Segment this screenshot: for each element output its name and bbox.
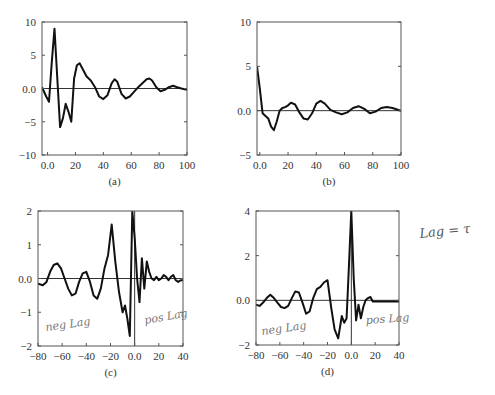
x-tick-label: 0.0: [128, 350, 142, 362]
y-tick-label: 2: [27, 205, 33, 217]
x-tick-label: 40: [394, 349, 406, 361]
y-tick-label: 0.0: [18, 273, 32, 285]
y-tick-label: −10: [19, 149, 37, 161]
y-tick-label: 2: [245, 250, 251, 262]
subplot-caption-a: (a): [108, 175, 121, 188]
x-tick-label: 60: [126, 159, 138, 171]
x-tick-label: 80: [154, 159, 166, 171]
x-tick-label: 80: [367, 159, 379, 171]
subplot-c: −80−60−40−200.02040−2−10.012(c): [18, 205, 189, 379]
y-tick-label: −5: [239, 149, 251, 161]
subplot-caption-b: (b): [323, 175, 336, 188]
x-tick-label: 20: [283, 159, 295, 171]
annotation-neg-lag-c: neg Lag: [45, 315, 91, 334]
y-tick-label: 0.0: [236, 294, 250, 306]
y-tick-label: −1: [20, 306, 32, 318]
series-line-b: [257, 66, 401, 130]
subplot-caption-d: (d): [321, 365, 334, 378]
y-tick-label: −2: [20, 340, 32, 352]
x-tick-label: 0.0: [41, 159, 55, 171]
x-tick-label: 20: [153, 350, 165, 362]
y-tick-label: 10: [240, 16, 252, 28]
x-tick-label: −80: [247, 349, 265, 361]
x-tick-label: −20: [102, 350, 120, 362]
y-tick-label: −2: [238, 339, 250, 351]
y-tick-label: 5: [246, 60, 252, 72]
x-tick-label: 0.0: [344, 349, 358, 361]
x-tick-label: −40: [295, 349, 313, 361]
x-tick-label: 60: [339, 159, 351, 171]
annotation-pos-lag-c: pos Lag: [143, 307, 188, 327]
subplot-caption-c: (c): [104, 366, 117, 379]
subplot-a: 0.020406080100−10−50.0510(a): [19, 16, 196, 188]
y-tick-label: 5: [31, 49, 37, 61]
y-tick-label: 0.0: [22, 83, 36, 95]
x-tick-label: 100: [179, 159, 196, 171]
annotation-neg-lag-d: neg Lag: [261, 319, 307, 338]
x-tick-label: 0.0: [253, 159, 267, 171]
x-tick-label: 40: [311, 159, 323, 171]
series-line-a: [42, 29, 187, 127]
y-tick-label: 1: [27, 239, 33, 251]
y-tick-label: 0.0: [237, 105, 251, 117]
subplot-d: −80−60−40−200.02040−20.024(d): [236, 205, 405, 378]
y-tick-label: 4: [245, 205, 251, 217]
plot-frame-b: [257, 22, 401, 155]
figure-canvas: 0.020406080100−10−50.0510(a) 0.020406080…: [0, 0, 495, 395]
x-tick-label: −60: [271, 349, 289, 361]
subplot-b: 0.020406080100−50.0510(b): [237, 16, 410, 188]
x-tick-label: −40: [78, 350, 96, 362]
x-tick-label: 40: [98, 159, 110, 171]
annotation-lag-tau: Lag = τ: [418, 221, 472, 241]
y-tick-label: 10: [25, 16, 37, 28]
x-tick-label: 40: [178, 350, 190, 362]
x-tick-label: −80: [29, 350, 47, 362]
annotation-pos-lag-d: pos Lag: [365, 311, 410, 327]
x-tick-label: −60: [54, 350, 72, 362]
y-tick-label: −5: [24, 116, 36, 128]
x-tick-label: −20: [319, 349, 337, 361]
x-tick-label: 20: [370, 349, 382, 361]
x-tick-label: 20: [70, 159, 82, 171]
x-tick-label: 100: [393, 159, 410, 171]
